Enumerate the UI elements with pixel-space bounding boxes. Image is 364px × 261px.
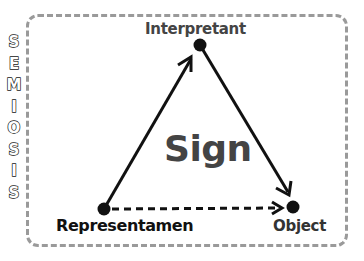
object-label: Object bbox=[273, 217, 326, 235]
node-interpretant bbox=[194, 39, 207, 52]
interpretant-label: Interpretant bbox=[145, 20, 246, 38]
edge-interpretant-object bbox=[200, 45, 288, 192]
edge-representamen-object bbox=[112, 208, 280, 209]
node-representamen bbox=[98, 203, 111, 216]
node-object bbox=[287, 201, 300, 214]
representamen-label: Representamen bbox=[56, 216, 193, 235]
sign-label: Sign bbox=[164, 128, 252, 169]
